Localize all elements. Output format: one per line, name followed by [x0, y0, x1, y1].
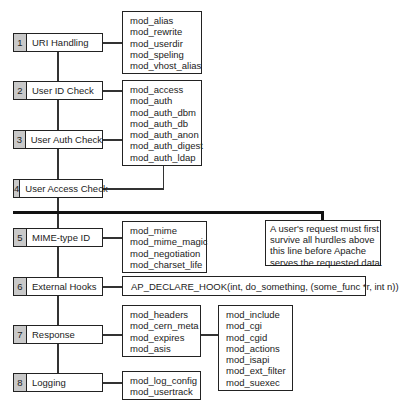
step-label: MIME-type ID — [27, 229, 90, 246]
connector-step5 — [102, 237, 122, 239]
step-user-access-check: 4 User Access Check — [13, 179, 103, 198]
note-line: survive all hurdles above — [270, 234, 376, 245]
module-item: mod_isapi — [226, 354, 292, 365]
step-logging: 8 Logging — [13, 373, 103, 392]
module-item: mod_auth_anon — [130, 129, 201, 140]
module-item: mod_rewrite — [130, 26, 201, 37]
step-label: Logging — [27, 374, 66, 391]
module-item: mod_auth_dbm — [130, 107, 201, 118]
step-uri-handling: 1 URI Handling — [13, 33, 103, 52]
module-item: mod_cgid — [226, 332, 292, 343]
step-number: 8 — [14, 374, 27, 391]
module-item: mod_auth — [130, 95, 201, 106]
step-label: External Hooks — [27, 278, 96, 295]
step-number: 7 — [14, 326, 27, 343]
step-user-auth-check: 3 User Auth Check — [13, 130, 103, 149]
connector-step1 — [102, 42, 122, 44]
module-item: mod_auth_db — [130, 118, 201, 129]
module-item: mod_ext_filter — [226, 365, 292, 376]
modules-response-b: mod_include mod_cgi mod_cgid mod_actions… — [218, 305, 293, 391]
module-item: mod_userdir — [130, 38, 201, 49]
step-mime-type-id: 5 MIME-type ID — [13, 228, 103, 247]
module-item: mod_mime — [130, 225, 206, 236]
module-item: mod_vhost_alias — [130, 60, 201, 71]
connector-step3 — [102, 139, 122, 141]
connector-step6 — [102, 286, 122, 288]
module-item: mod_actions — [226, 343, 292, 354]
module-item: mod_headers — [130, 309, 200, 320]
connector-step4-h — [102, 188, 164, 190]
step-external-hooks: 6 External Hooks — [13, 277, 103, 296]
connector-step7b — [200, 334, 218, 336]
module-item: mod_negotiation — [130, 248, 206, 259]
step-label: User ID Check — [27, 82, 94, 99]
connector-step4-v — [163, 166, 165, 189]
module-item: mod_expires — [130, 332, 200, 343]
step-number: 1 — [14, 34, 27, 51]
note-line: serves the requested data. — [270, 257, 376, 268]
module-item: mod_speling — [130, 49, 201, 60]
boundary-note: A user's request must first survive all … — [265, 220, 381, 266]
step-label: User Access Check — [20, 180, 107, 197]
step-number: 2 — [14, 82, 27, 99]
step-label: URI Handling — [27, 34, 89, 51]
module-item: mod_auth_digest — [130, 140, 201, 151]
module-item: mod_mime_magic — [130, 236, 206, 247]
connector-step8 — [102, 382, 122, 384]
step-number: 3 — [14, 131, 26, 148]
module-item: mod_cgi — [226, 320, 292, 331]
module-item: mod_asis — [130, 343, 200, 354]
step-response: 7 Response — [13, 325, 103, 344]
modules-mime: mod_mime mod_mime_magic mod_negotiation … — [122, 221, 207, 273]
module-item: mod_include — [226, 309, 292, 320]
modules-uri-handling: mod_alias mod_rewrite mod_userdir mod_sp… — [122, 11, 202, 74]
module-item: mod_charset_life — [130, 259, 206, 270]
note-line: this line before Apache — [270, 245, 376, 256]
hook-declaration: AP_DECLARE_HOOK(int, do_something, (some… — [122, 276, 366, 296]
connector-step7 — [102, 334, 122, 336]
hook-text: AP_DECLARE_HOOK(int, do_something, (some… — [131, 281, 399, 292]
modules-logging: mod_log_config mod_usertrack — [122, 371, 201, 400]
module-item: mod_access — [130, 84, 201, 95]
module-item: mod_usertrack — [130, 386, 200, 397]
modules-auth: mod_access mod_auth mod_auth_dbm mod_aut… — [122, 80, 202, 166]
modules-response-a: mod_headers mod_cern_meta mod_expires mo… — [122, 305, 201, 357]
step-number: 6 — [14, 278, 27, 295]
note-line: A user's request must first — [270, 223, 376, 234]
module-item: mod_cern_meta — [130, 320, 200, 331]
security-boundary-line — [13, 211, 323, 214]
module-item: mod_alias — [130, 15, 201, 26]
module-item: mod_auth_ldap — [130, 152, 201, 163]
module-item: mod_suexec — [226, 377, 292, 388]
step-number: 5 — [14, 229, 27, 246]
connector-step2 — [102, 90, 122, 92]
module-item: mod_log_config — [130, 375, 200, 386]
step-label: Response — [27, 326, 75, 343]
step-label: User Auth Check — [26, 131, 102, 148]
step-user-id-check: 2 User ID Check — [13, 81, 103, 100]
